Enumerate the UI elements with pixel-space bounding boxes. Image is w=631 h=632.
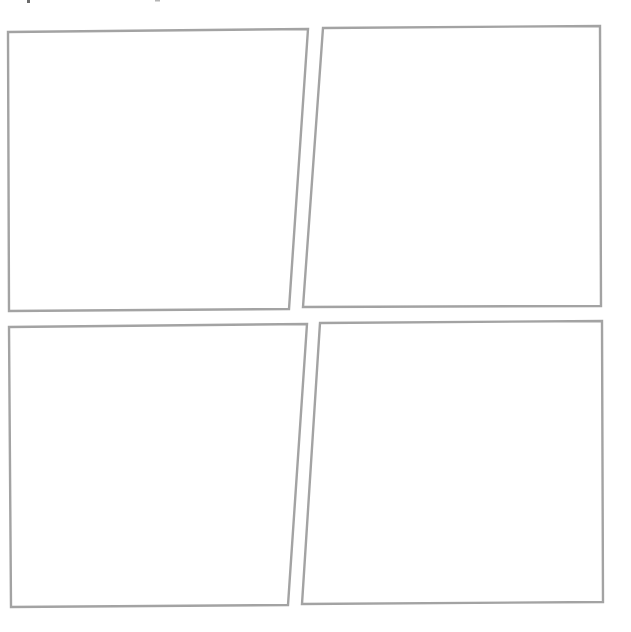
cropped-text-fragment [27,0,30,3]
panel-bottom-right[interactable] [302,321,603,604]
panel-bottom-left[interactable] [9,324,307,607]
cropped-text-fragment [155,0,160,2]
panel-grid-canvas [0,0,631,632]
panel-top-left[interactable] [8,29,308,311]
panel-top-right[interactable] [303,26,601,307]
